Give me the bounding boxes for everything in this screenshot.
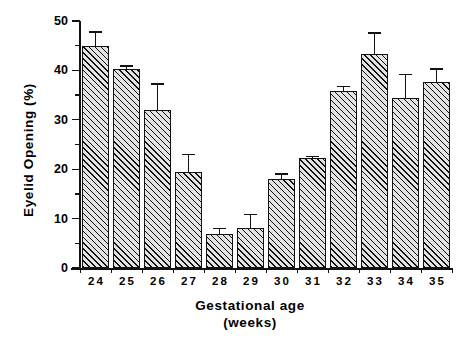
x-tick-label-28: 28 xyxy=(212,275,229,287)
error-bar-stem-27 xyxy=(188,154,190,171)
x-tick-label-27: 27 xyxy=(181,275,198,287)
error-bar-cap-35 xyxy=(430,68,444,70)
error-bar-cap-33 xyxy=(368,32,382,34)
x-tick-25 xyxy=(111,268,112,273)
error-bar-cap-28 xyxy=(213,228,227,230)
y-tick-label-0: 0 xyxy=(61,261,68,275)
error-bar-cap-24 xyxy=(89,31,103,33)
x-tick-label-30: 30 xyxy=(274,275,291,287)
bar-29 xyxy=(237,228,264,268)
error-bar-cap-27 xyxy=(182,154,196,156)
x-tick-27 xyxy=(173,268,174,273)
plot-area: 01020304050 242526272829303132333435 xyxy=(80,21,452,268)
error-bar-cap-34 xyxy=(399,74,413,76)
error-bar-stem-35 xyxy=(436,69,438,82)
y-minor-tick-15 xyxy=(75,193,80,194)
x-tick-end xyxy=(452,268,453,273)
x-tick-label-29: 29 xyxy=(243,275,260,287)
x-tick-34 xyxy=(390,268,391,273)
error-bar-stem-33 xyxy=(374,33,376,54)
x-tick-35 xyxy=(421,268,422,273)
error-bar-cap-25 xyxy=(120,65,134,67)
bar-24 xyxy=(82,46,109,268)
y-minor-tick-45 xyxy=(75,45,80,46)
x-tick-30 xyxy=(266,268,267,273)
y-tick-30 xyxy=(72,119,80,120)
error-bar-cap-26 xyxy=(151,83,165,85)
y-tick-50 xyxy=(72,20,80,21)
x-tick-label-24: 24 xyxy=(88,275,105,287)
x-tick-label-32: 32 xyxy=(336,275,353,287)
error-bar-cap-29 xyxy=(244,214,258,216)
bar-35 xyxy=(423,82,450,268)
x-tick-label-33: 33 xyxy=(367,275,384,287)
x-tick-29 xyxy=(235,268,236,273)
y-tick-label-30: 30 xyxy=(54,113,68,127)
error-bar-cap-31 xyxy=(306,156,320,158)
y-minor-tick-35 xyxy=(75,94,80,95)
x-tick-label-31: 31 xyxy=(305,275,322,287)
y-tick-0 xyxy=(72,267,80,268)
y-tick-label-20: 20 xyxy=(54,162,68,176)
x-axis-title: Gestational age (weeks) xyxy=(60,297,440,331)
bar-32 xyxy=(330,91,357,268)
bar-33 xyxy=(361,54,388,268)
y-tick-label-10: 10 xyxy=(54,212,68,226)
error-bar-stem-28 xyxy=(219,228,221,234)
bar-25 xyxy=(113,69,140,268)
x-tick-33 xyxy=(359,268,360,273)
error-bar-stem-24 xyxy=(95,32,97,46)
error-bar-cap-32 xyxy=(337,86,351,88)
bar-30 xyxy=(268,179,295,268)
error-bar-stem-34 xyxy=(405,74,407,97)
x-tick-24 xyxy=(80,268,81,273)
bar-31 xyxy=(299,158,326,268)
bar-34 xyxy=(392,98,419,268)
y-tick-label-40: 40 xyxy=(54,63,68,77)
x-tick-28 xyxy=(204,268,205,273)
y-tick-label-50: 50 xyxy=(54,14,68,28)
x-axis-line xyxy=(71,268,452,270)
y-minor-tick-25 xyxy=(75,144,80,145)
x-tick-26 xyxy=(142,268,143,273)
y-tick-10 xyxy=(72,218,80,219)
x-axis-title-unit: (weeks) xyxy=(60,314,440,331)
bar-26 xyxy=(144,110,171,268)
error-bar-cap-30 xyxy=(275,173,289,175)
x-tick-label-26: 26 xyxy=(150,275,167,287)
x-tick-label-25: 25 xyxy=(119,275,136,287)
x-axis-title-main: Gestational age xyxy=(195,298,305,313)
error-bar-stem-26 xyxy=(157,84,159,110)
x-tick-label-35: 35 xyxy=(429,275,446,287)
x-tick-label-34: 34 xyxy=(398,275,415,287)
y-axis-title: Eyelid Opening (%) xyxy=(18,5,40,295)
y-tick-20 xyxy=(72,169,80,170)
error-bar-stem-29 xyxy=(250,215,252,229)
bar-28 xyxy=(206,234,233,268)
x-tick-31 xyxy=(297,268,298,273)
y-tick-40 xyxy=(72,70,80,71)
y-minor-tick-5 xyxy=(75,243,80,244)
bar-chart-figure: Eyelid Opening (%) 01020304050 242526272… xyxy=(0,0,473,342)
bar-27 xyxy=(175,172,202,268)
x-tick-32 xyxy=(328,268,329,273)
